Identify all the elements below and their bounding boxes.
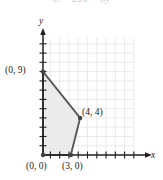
y-axis-arrow-icon (40, 28, 46, 35)
vertex-label-3-0: (3, 0) (62, 162, 83, 172)
vertex-dot-0-9 (41, 69, 45, 73)
coordinate-plot (0, 0, 163, 180)
vertex-dot-0-0 (41, 153, 45, 157)
vertex-label-0-9: (0, 9) (5, 66, 26, 76)
plot-svg (0, 0, 163, 180)
y-axis-label: y (39, 17, 43, 27)
vertex-label-4-4: (4, 4) (82, 108, 103, 118)
feasible-region-shape (43, 72, 80, 155)
x-axis-label: x (151, 151, 155, 161)
figure-canvas: C = 20x + 8y (0, 0, 163, 180)
vertex-dot-3-0 (69, 153, 73, 157)
vertex-label-0-0: (0, 0) (26, 162, 47, 172)
